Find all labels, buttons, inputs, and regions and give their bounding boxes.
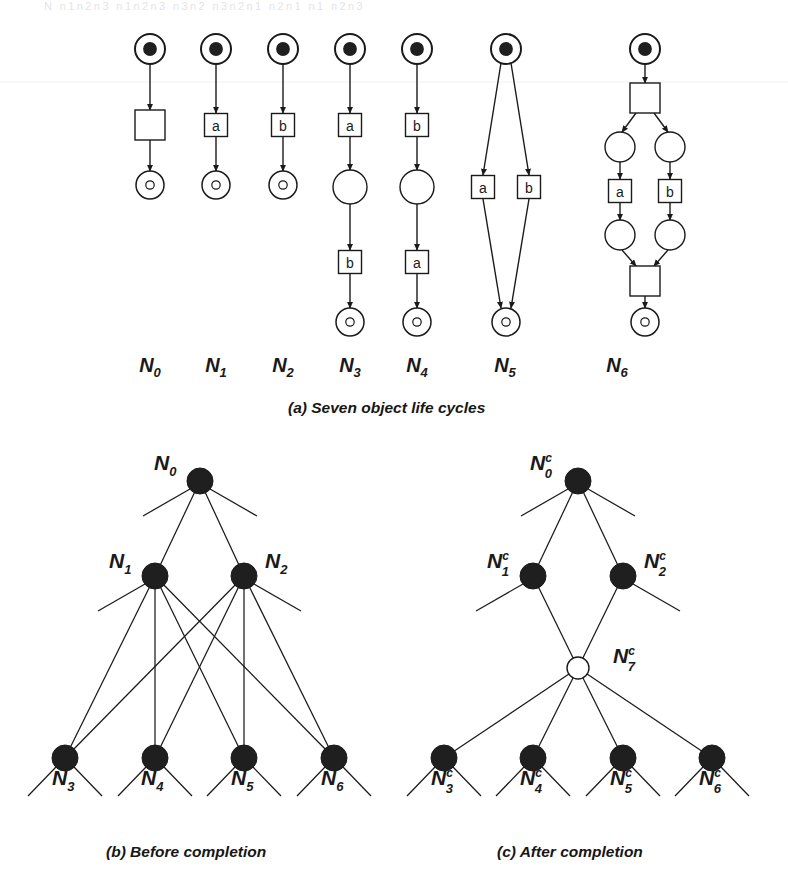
place-final-inner [413,318,421,326]
place-final-inner [346,318,354,326]
petri-net-N6: ab [605,34,685,336]
after-completion-node-label-N7c: Nc7 [613,644,636,674]
node-label-subscript: 0 [545,466,553,481]
net-name-subscript: 2 [286,365,295,380]
before-completion-node-label-N3: N3 [52,766,75,794]
net-name-label: N3 [339,354,361,380]
after-completion-stub-edge [632,767,660,796]
transition-label: a [479,180,487,196]
before-completion-stub-edge [74,767,102,796]
token-dot [410,42,424,56]
transition-label: b [666,184,674,200]
petri-arc [654,250,668,266]
transition-label: a [413,255,421,271]
petri-arc [483,63,501,175]
node-label-subscript: 6 [336,779,344,794]
place-final-inner [146,181,154,189]
before-completion-edge [249,587,328,747]
petri-net-N1: a [201,34,231,199]
node-label-subscript: 5 [625,781,633,796]
after-completion-stub-edge [453,767,481,796]
transition-silent [630,266,660,296]
node-label-subscript: 3 [67,779,75,794]
token-dot [143,42,157,56]
panel-c-lattice: Nc0Nc1Nc2Nc7Nc3Nc4Nc5Nc6 [407,451,749,796]
net-name-subscript: 4 [420,365,429,380]
node-label-subscript: 3 [446,781,454,796]
after-completion-node-N2c[interactable] [610,563,636,589]
petri-arc [511,199,529,308]
place-final-inner [279,181,287,189]
node-label-subscript: 5 [246,779,254,794]
place-plain [333,170,367,204]
node-label-superscript: c [625,766,632,780]
petri-net-N5: ab [472,34,541,336]
figure-root: N n1n2n3 n1n2n3 n3n2 n3n2n1 n2n1 n1 n2n3… [0,0,788,892]
caption-panel-c: (c) After completion [497,843,643,861]
after-completion-edge [538,587,573,659]
node-label-superscript: c [659,549,666,563]
transition-label: a [212,118,220,134]
before-completion-stub-edge [164,767,192,796]
panel-a-petri-nets: ababbaababN0N1N2N3N4N5N6 [135,34,685,380]
after-completion-node-N7c[interactable] [567,657,589,679]
node-label-subscript: 0 [169,464,177,479]
node-label-subscript: 6 [714,781,722,796]
after-completion-node-label-N1c: Nc1 [487,549,509,579]
transition-label: b [346,255,354,271]
place-final-inner [502,318,510,326]
petri-net-N4: ba [400,34,434,336]
node-label-superscript: c [628,644,635,658]
after-completion-stub-edge [588,489,635,516]
petri-net-N0 [135,34,165,199]
transition-label: b [279,118,287,134]
petri-arc [654,113,668,132]
net-name-label: N6 [606,354,628,380]
place-plain [400,170,434,204]
before-completion-stub-edge [143,489,190,516]
before-completion-node-label-N5: N5 [231,766,254,794]
before-completion-node-N1[interactable] [142,563,168,589]
after-completion-node-label-N6c: Nc6 [699,766,722,796]
net-name-label: N2 [272,354,294,380]
net-name-label: N0 [139,354,161,380]
node-label-subscript: 2 [658,564,667,579]
before-completion-stub-edge [210,489,257,516]
token-dot [638,42,652,56]
before-completion-node-N0[interactable] [187,468,213,494]
after-completion-stub-edge [721,767,749,796]
before-completion-node-label-N2: N2 [265,549,288,577]
token-dot [209,42,223,56]
transition-label: a [346,118,354,134]
before-completion-node-label-N1: N1 [109,549,131,577]
place-plain [605,220,635,250]
after-completion-node-label-N4c: Nc4 [520,766,543,796]
after-completion-edge [586,674,702,752]
node-label-superscript: c [714,766,721,780]
node-label-subscript: 1 [124,562,131,577]
net-name-subscript: 3 [354,365,362,380]
figure-canvas: ababbaababN0N1N2N3N4N5N6 N0N1N2N3N4N5N6 … [0,0,788,892]
before-completion-stub-edge [254,584,301,611]
after-completion-node-N0c[interactable] [565,468,591,494]
before-completion-node-N2[interactable] [231,563,257,589]
after-completion-stub-edge [521,489,568,516]
net-name-subscript: 5 [509,365,517,380]
place-plain [655,132,685,162]
petri-net-N3: ab [333,34,367,336]
transition-label: b [413,118,421,134]
before-completion-node-label-N6: N6 [321,766,344,794]
transition-label: b [525,180,533,196]
node-label-subscript: 1 [502,564,509,579]
before-completion-stub-edge [343,767,371,796]
petri-arc [622,113,636,132]
after-completion-node-label-N3c: Nc3 [431,766,454,796]
node-label-superscript: c [535,766,542,780]
before-completion-stub-edge [98,584,145,611]
after-completion-node-N1c[interactable] [520,563,546,589]
net-name-subscript: 1 [220,365,227,380]
after-completion-node-label-N5c: Nc5 [610,766,633,796]
net-name-label: N5 [494,354,516,380]
after-completion-node-label-N2c: Nc2 [644,549,667,579]
node-label-subscript: 4 [534,781,543,796]
